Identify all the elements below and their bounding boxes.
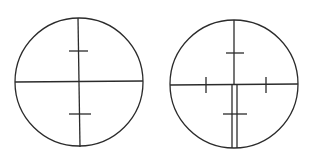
reticle-line xyxy=(78,18,80,147)
reticle-right xyxy=(170,20,298,148)
reticle-left xyxy=(15,18,143,147)
reticle-diagram xyxy=(0,0,313,162)
diagram-canvas xyxy=(0,0,313,162)
